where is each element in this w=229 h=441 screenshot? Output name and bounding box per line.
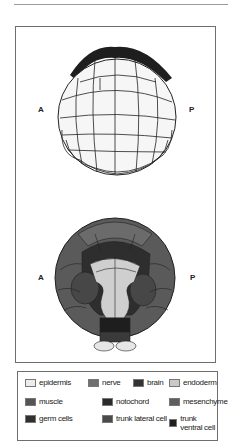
- legend-label: trunk ventral cell: [180, 414, 217, 432]
- swatch-muscle: [25, 398, 36, 406]
- legend-item-trunk-ventral-cell: trunk ventral cell: [169, 414, 217, 432]
- legend-label: trunk lateral cell: [116, 414, 167, 423]
- swatch-nerve: [88, 379, 99, 387]
- legend-item-trunk-lateral-cell: trunk lateral cell: [102, 414, 167, 423]
- posterior-label-bottom: P: [190, 273, 195, 282]
- legend-label: mesenchyme: [183, 397, 228, 406]
- swatch-trunk-lateral-cell: [102, 415, 113, 423]
- swatch-trunk-ventral-cell: [169, 419, 177, 427]
- swatch-germ-cells: [25, 415, 36, 423]
- legend-item-mesenchyme: mesenchyme: [169, 397, 228, 406]
- posterior-label-top: P: [189, 105, 194, 114]
- legend-item-brain: brain: [133, 378, 163, 387]
- swatch-notochord: [102, 398, 113, 406]
- legend-label: endoderm: [183, 378, 217, 387]
- legend-item-epidermis: epidermis: [25, 378, 71, 387]
- top-rule: [14, 4, 228, 5]
- swatch-brain: [133, 379, 144, 387]
- legend-item-notochord: notochord: [102, 397, 149, 406]
- legend-label: muscle: [39, 397, 63, 406]
- legend-label: notochord: [116, 397, 149, 406]
- swatch-mesenchyme: [169, 398, 180, 406]
- anterior-label-bottom: A: [38, 273, 44, 282]
- legend-item-muscle: muscle: [25, 397, 63, 406]
- legend-item-germ-cells: germ cells: [25, 414, 72, 423]
- legend-label: epidermis: [39, 378, 71, 387]
- swatch-epidermis: [25, 379, 36, 387]
- anterior-label-top: A: [38, 105, 44, 114]
- swatch-endoderm: [169, 379, 180, 387]
- legend: epidermis nerve brain endoderm muscle no…: [17, 371, 218, 441]
- legend-label: germ cells: [39, 414, 72, 423]
- legend-item-nerve: nerve: [88, 378, 121, 387]
- legend-item-endoderm: endoderm: [169, 378, 217, 387]
- legend-label: brain: [147, 378, 163, 387]
- legend-label: nerve: [102, 378, 121, 387]
